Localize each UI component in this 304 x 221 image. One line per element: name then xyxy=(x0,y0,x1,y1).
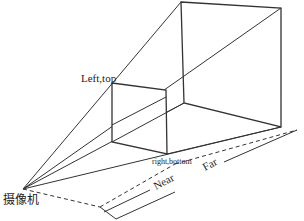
tick xyxy=(100,207,116,219)
dashed-far-depth xyxy=(175,130,297,164)
far-plane xyxy=(181,2,281,127)
label-near: Near xyxy=(151,171,176,192)
near-plane xyxy=(112,83,167,154)
label-far: Far xyxy=(200,155,219,173)
frustum-diagram: Left,top right,bottom Near Far 摄像机 xyxy=(0,0,304,221)
far-measure-line-ext xyxy=(224,130,297,162)
label-left-top: Left,top xyxy=(81,72,117,84)
near-measure-line xyxy=(104,190,150,212)
label-right-bottom: right,bottom xyxy=(152,157,193,166)
far-measure-line xyxy=(116,192,175,219)
label-camera: 摄像机 xyxy=(3,192,39,207)
